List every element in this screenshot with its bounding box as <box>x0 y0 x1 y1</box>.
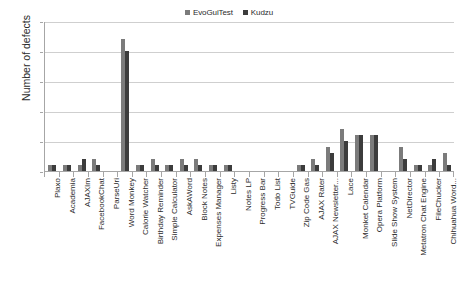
defects-bar-chart: EvoGuiTest Kudzu Number of defects 05101… <box>0 0 458 282</box>
x-label-cell: Metatron Chat Engine <box>410 178 425 282</box>
bar-group <box>118 22 133 171</box>
bar-group <box>45 22 60 171</box>
x-label-cell: FacebookChat <box>88 178 103 282</box>
x-tick-mark <box>220 172 235 177</box>
legend-entry-kudzu: Kudzu <box>243 8 273 17</box>
bar-group <box>366 22 381 171</box>
x-label-cell: Expenses Manager <box>205 178 220 282</box>
bar-kudzu <box>432 159 436 171</box>
bar-group <box>323 22 338 171</box>
bar-group <box>74 22 89 171</box>
x-label-cell: AJAXIm <box>73 178 88 282</box>
bar-group <box>235 22 250 171</box>
bar-kudzu <box>140 165 144 171</box>
bar-kudzu <box>315 165 319 171</box>
x-tick-mark <box>322 172 337 177</box>
x-tick-mark <box>395 172 410 177</box>
bar-kudzu <box>82 159 86 171</box>
bar-kudzu <box>125 51 129 171</box>
x-tick-mark <box>205 172 220 177</box>
x-tick-mark <box>59 172 74 177</box>
bar-group <box>191 22 206 171</box>
x-label-cell: Birthday Reminder <box>146 178 161 282</box>
x-label-cell: Notes LP <box>234 178 249 282</box>
bar-kudzu <box>330 153 334 171</box>
x-label-cell: Opera Platform <box>366 178 381 282</box>
bar-group <box>220 22 235 171</box>
x-tick-mark <box>308 172 323 177</box>
x-label-cell: Block Notes <box>190 178 205 282</box>
x-label-cell: Academia <box>59 178 74 282</box>
bar-kudzu <box>447 165 451 171</box>
bar-kudzu <box>344 141 348 171</box>
bar-kudzu <box>213 165 217 171</box>
x-label-cell: ParseUri <box>103 178 118 282</box>
legend-label-evoguitest: EvoGuiTest <box>193 8 233 17</box>
bar-group <box>250 22 265 171</box>
bar-kudzu <box>184 165 188 171</box>
x-tick-mark <box>117 172 132 177</box>
y-tick-mark <box>40 52 43 53</box>
x-tick-mark <box>44 172 59 177</box>
bar-group <box>133 22 148 171</box>
y-tick-mark <box>40 82 43 83</box>
bar-kudzu <box>403 159 407 171</box>
y-axis-title: Number of defects <box>20 0 32 118</box>
bar-group <box>176 22 191 171</box>
x-tick-mark <box>190 172 205 177</box>
bar-kudzu <box>169 165 173 171</box>
chart-legend: EvoGuiTest Kudzu <box>0 4 458 20</box>
y-tick-mark <box>40 172 43 173</box>
bar-group <box>293 22 308 171</box>
x-label-cell: AJAX Rater <box>308 178 323 282</box>
bar-group <box>352 22 367 171</box>
x-label-cell: Listy <box>220 178 235 282</box>
bar-group <box>410 22 425 171</box>
x-label-cell: Plaxo <box>44 178 59 282</box>
x-tick-mark <box>366 172 381 177</box>
x-label-cell: AskAWord <box>176 178 191 282</box>
bar-kudzu <box>198 165 202 171</box>
bar-kudzu <box>418 165 422 171</box>
y-tick-mark <box>40 22 43 23</box>
x-label-cell: Word Monkey <box>117 178 132 282</box>
bar-kudzu <box>96 165 100 171</box>
bar-series-container <box>45 22 454 171</box>
y-tick-mark <box>40 112 43 113</box>
x-axis-tick-labels: PlaxoAcademiaAJAXImFacebookChatParseUriW… <box>44 178 454 282</box>
x-label-cell: AJAX Newsletter... <box>322 178 337 282</box>
bar-group <box>337 22 352 171</box>
x-label-cell: FileChucker <box>425 178 440 282</box>
x-tick-mark <box>410 172 425 177</box>
x-tick-mark <box>176 172 191 177</box>
bar-kudzu <box>228 165 232 171</box>
plot-area <box>44 22 454 172</box>
x-label-cell: Slide Show System <box>381 178 396 282</box>
bar-group <box>147 22 162 171</box>
bar-group <box>439 22 454 171</box>
x-tick-mark <box>439 172 454 177</box>
bar-group <box>206 22 221 171</box>
bar-kudzu <box>67 165 71 171</box>
bar-group <box>425 22 440 171</box>
x-label-cell: Simple Calculator <box>161 178 176 282</box>
bar-kudzu <box>374 135 378 171</box>
bar-kudzu <box>301 165 305 171</box>
bar-group <box>264 22 279 171</box>
x-tick-mark <box>381 172 396 177</box>
legend-entry-evoguitest: EvoGuiTest <box>185 8 233 17</box>
x-tick-mark <box>132 172 147 177</box>
bar-group <box>308 22 323 171</box>
x-tick-label: Chihuahua Word... <box>450 178 458 245</box>
x-tick-mark <box>249 172 264 177</box>
x-tick-mark <box>264 172 279 177</box>
x-label-cell: Progress Bar <box>249 178 264 282</box>
bar-group <box>162 22 177 171</box>
bar-group <box>60 22 75 171</box>
x-tick-mark <box>293 172 308 177</box>
x-tick-mark <box>73 172 88 177</box>
bar-group <box>103 22 118 171</box>
x-axis-tick-marks <box>44 172 454 177</box>
bar-kudzu <box>359 135 363 171</box>
bar-group <box>279 22 294 171</box>
